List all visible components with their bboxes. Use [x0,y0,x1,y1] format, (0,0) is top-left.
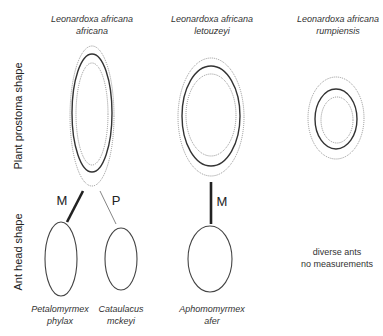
plant-axis-label: Plant prostoma shape [12,62,24,169]
plant-title-line1: Leonardoxa africana [51,14,133,24]
ant-label-line2: phylax [46,316,74,326]
ant-axis-label: Ant head shape [12,213,24,290]
plant-title-line1: Leonardoxa africana [171,14,253,24]
link-label-m-left: M [57,193,68,208]
ant-head-cataulacus [105,228,137,290]
ant-label-line2: mckeyi [107,316,136,326]
ant-head-petalomyrmex [45,222,77,296]
diagram-canvas: Plant prostoma shape Ant head shape Leon… [0,0,383,336]
ant-label-line1: Aphomomyrmex [178,304,245,314]
prostoma-inner-range [186,74,236,156]
note-line1: diverse ants [313,247,362,257]
link-label-p-left: P [112,193,121,208]
note-line2: no measurements [301,259,374,269]
link-label-m-middle: M [217,194,228,209]
figure: Plant prostoma shape Ant head shape Leon… [0,0,383,336]
ant-label-line1: Cataulacus [98,304,144,314]
prostoma-inner-range [76,63,108,165]
ant-label-line2: afer [204,316,221,326]
prostoma-inner-range [321,97,353,143]
plant-title-line2: africana [76,26,108,36]
no-measurements-note: diverse ants no measurements [301,247,374,269]
prostoma-rumpiensis [308,77,364,159]
prostoma-mean-shape [182,66,240,166]
prostoma-africana [70,46,114,186]
plant-title-rumpiensis: Leonardoxa africana rumpiensis [297,14,379,36]
link-m-left [67,191,83,222]
ant-head-aphomomyrmex [188,226,232,292]
prostoma-letouzeyi [178,58,244,176]
ant-label-cataulacus: Cataulacus mckeyi [98,304,144,326]
ant-label-petalomyrmex: Petalomyrmex phylax [31,304,89,326]
plant-title-africana: Leonardoxa africana africana [51,14,133,36]
plant-title-line2: letouzeyi [194,26,231,36]
plant-title-letouzeyi: Leonardoxa africana letouzeyi [171,14,253,36]
prostoma-outer-range [178,58,244,176]
prostoma-mean-shape [72,54,112,172]
ant-label-line1: Petalomyrmex [31,304,89,314]
ant-label-aphomomyrmex: Aphomomyrmex afer [178,304,245,326]
plant-title-line2: rumpiensis [316,26,360,36]
plant-title-line1: Leonardoxa africana [297,14,379,24]
